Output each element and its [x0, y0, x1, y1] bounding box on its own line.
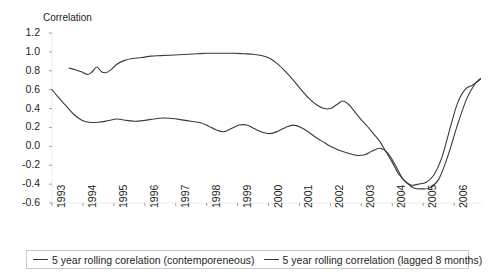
x-axis-tick-label: 2004: [396, 185, 407, 208]
x-axis-tick-label: 1993: [56, 185, 67, 208]
legend-entry-contemporaneous[interactable]: 5 year rolling corelation (contemporeneo…: [33, 254, 255, 266]
y-axis-tick-label: 0.6: [10, 84, 40, 95]
x-axis-tick-label: 2003: [365, 185, 376, 208]
y-axis-tick-label: 0.2: [10, 121, 40, 132]
x-axis-tick-label: 1998: [211, 185, 222, 208]
x-axis-tick-label: 2000: [273, 185, 284, 208]
y-axis-tick-label: 0.4: [10, 103, 40, 114]
y-axis-tick-label: 1.2: [10, 27, 40, 38]
y-axis-tick-label: -0.4: [10, 178, 40, 189]
series-line-lagged: [52, 79, 480, 185]
y-axis-tick-label: 0.8: [10, 65, 40, 76]
legend-label-contemporaneous: 5 year rolling corelation (contemporeneo…: [52, 254, 255, 266]
y-axis-tick-label: -0.6: [10, 197, 40, 208]
x-axis-tick-label: 1996: [149, 185, 160, 208]
chart-legend: 5 year rolling corelation (contemporeneo…: [26, 250, 469, 269]
y-axis-tick-label: 0.0: [10, 140, 40, 151]
legend-entry-lagged[interactable]: 5 year rolling correlation (lagged 8 mon…: [264, 254, 483, 266]
x-axis-tick-label: 2001: [303, 185, 314, 208]
x-axis-tick-label: 2005: [427, 185, 438, 208]
x-axis-tick-label: 2006: [458, 185, 469, 208]
legend-label-lagged: 5 year rolling correlation (lagged 8 mon…: [283, 254, 483, 266]
plot-area: [0, 0, 495, 273]
legend-line-icon: [33, 259, 48, 260]
correlation-chart-figure: Correlation 5 year rolling corelation (c…: [0, 0, 495, 273]
x-axis-tick-label: 2002: [334, 185, 345, 208]
y-axis-tick-label: -0.2: [10, 159, 40, 170]
legend-line-icon: [264, 259, 279, 260]
x-axis-tick-label: 1997: [180, 185, 191, 208]
y-axis-tick-label: 1.0: [10, 46, 40, 57]
x-axis-tick-label: 1994: [87, 185, 98, 208]
x-axis-tick-label: 1995: [118, 185, 129, 208]
x-axis-tick-label: 1999: [242, 185, 253, 208]
